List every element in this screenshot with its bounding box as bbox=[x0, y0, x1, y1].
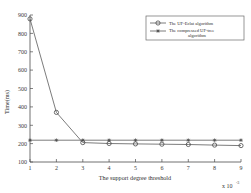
chart-legend: The UF-Eclat algorithm The compressed UF… bbox=[146, 16, 244, 40]
x-multiplier-label: x 10 bbox=[222, 183, 233, 189]
x-tick-label: 2 bbox=[55, 165, 58, 171]
y-tick-label: 900 bbox=[18, 12, 27, 18]
x-multiplier-exponent: -3 bbox=[236, 180, 239, 185]
x-tick-label: 1 bbox=[29, 165, 32, 171]
x-tick-label: 4 bbox=[108, 165, 111, 171]
x-tick-label: 3 bbox=[81, 165, 84, 171]
y-tick-label: 700 bbox=[18, 49, 27, 55]
y-tick-label: 200 bbox=[18, 141, 27, 147]
y-tick-label: 500 bbox=[18, 86, 27, 92]
x-tick-label: 9 bbox=[240, 165, 243, 171]
y-axis-title: Time(ms) bbox=[3, 90, 11, 114]
y-tick-label: 100 bbox=[18, 159, 27, 165]
y-tick-label: 600 bbox=[18, 67, 27, 73]
y-tick-label: 800 bbox=[18, 31, 27, 37]
x-tick-label: 7 bbox=[187, 165, 190, 171]
y-tick-label: 300 bbox=[18, 123, 27, 129]
x-tick-label: 5 bbox=[134, 165, 137, 171]
x-axis-title: The support degree threshold bbox=[99, 174, 172, 181]
x-tick-label: 6 bbox=[160, 165, 163, 171]
legend-label-1: The UF-Eclat algorithm bbox=[169, 21, 214, 26]
chart-figure: 100 200 300 400 500 600 700 800 900 1 2 … bbox=[0, 0, 251, 193]
asterisk-marker-icon bbox=[156, 29, 160, 33]
x-tick-label: 8 bbox=[213, 165, 216, 171]
legend-label-2-cont: algorithm bbox=[188, 33, 206, 38]
y-tick-label: 400 bbox=[18, 104, 27, 110]
line-chart-plot: 100 200 300 400 500 600 700 800 900 1 2 … bbox=[0, 0, 251, 193]
